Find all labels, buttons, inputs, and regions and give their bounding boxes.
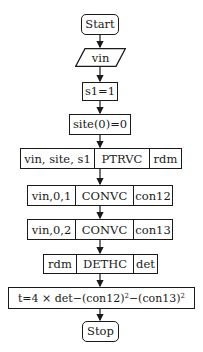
dethc-process: rdm DETHC det [43,254,158,274]
init-site-box: site(0)=0 [69,114,131,135]
ptrvc-output: rdm [149,149,181,168]
input-parallelogram: vin [75,48,126,67]
init-s1-label: s1=1 [85,86,115,98]
convc1-proc: CONVC [75,186,133,205]
ptrvc-inputs: vin, site, s1 [21,149,94,168]
convc1-output: con12 [133,186,172,205]
convc2-output: con13 [133,220,172,239]
convc1-process: vin,0,1 CONVC con12 [27,185,173,206]
ptrvc-process: vin, site, s1 PTRVC rdm [20,148,182,169]
dethc-proc: DETHC [76,255,133,273]
convc1-inputs: vin,0,1 [28,186,75,205]
formula-text: t=4 × det−(con12)2−(con13)2 [18,293,185,304]
ptrvc-proc: PTRVC [94,149,149,168]
dethc-output: det [133,255,157,273]
start-terminal: Start [81,14,119,35]
start-label: Start [85,19,114,31]
stop-label: Stop [87,326,114,338]
formula-box: t=4 × det−(con12)2−(con13)2 [8,287,195,309]
convc2-process: vin,0,2 CONVC con13 [27,219,173,240]
input-label: vin [92,51,110,65]
stop-terminal: Stop [82,321,119,342]
init-site-label: site(0)=0 [73,119,127,131]
convc2-proc: CONVC [75,220,133,239]
init-s1-box: s1=1 [82,82,118,101]
dethc-inputs: rdm [44,255,76,273]
convc2-inputs: vin,0,2 [28,220,75,239]
